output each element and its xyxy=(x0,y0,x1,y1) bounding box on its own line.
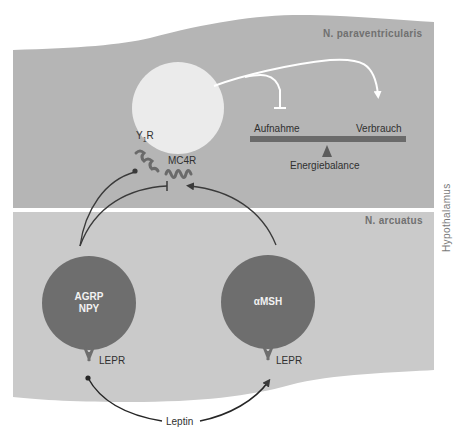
y1r-label: Y1R xyxy=(136,130,154,143)
amsh-label: αMSH xyxy=(243,296,293,308)
side-label-hypothalamus: Hypothalamus xyxy=(441,183,452,252)
expenditure-label: Verbrauch xyxy=(356,123,402,134)
activation-dot-icon xyxy=(132,168,137,173)
region-label-arcuate: N. arcuatus xyxy=(365,215,423,226)
mc4r-label: MC4R xyxy=(168,155,196,166)
diagram-canvas: N. paraventricularis N. arcuatus Hypotha… xyxy=(0,0,459,442)
energy-balance-label: Energiebalance xyxy=(290,160,360,171)
agrp-text: AGRP xyxy=(64,291,114,303)
region-label-paraventricular: N. paraventricularis xyxy=(323,28,422,39)
agrp-npy-label: AGRP NPY xyxy=(64,291,114,315)
leptin-label: Leptin xyxy=(166,416,193,427)
region-divider xyxy=(13,208,434,212)
intake-label: Aufnahme xyxy=(254,123,300,134)
lepr-label-right: LEPR xyxy=(276,355,302,366)
lepr-label-left: LEPR xyxy=(99,355,125,366)
npy-text: NPY xyxy=(64,303,114,315)
balance-bar xyxy=(250,136,406,142)
